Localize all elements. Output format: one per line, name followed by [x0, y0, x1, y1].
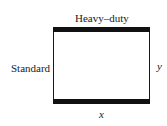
x-dimension-label: x [99, 108, 104, 120]
y-dimension-label: y [157, 60, 162, 72]
rectangle-enclosure [53, 27, 150, 104]
heavy-duty-bottom-side [53, 99, 150, 104]
heavy-duty-top-side [53, 27, 150, 32]
heavy-duty-label: Heavy–duty [75, 12, 129, 24]
standard-label: Standard [11, 62, 50, 74]
